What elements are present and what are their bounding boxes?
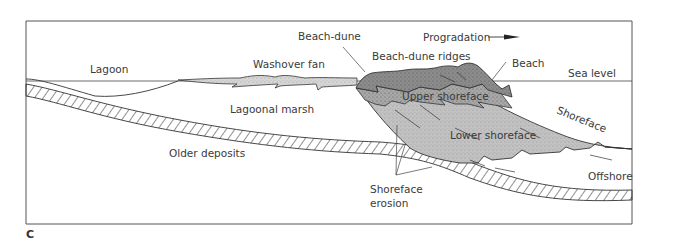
offshore-seafloor — [605, 147, 632, 149]
label-progradation: Progradation — [423, 31, 490, 43]
label-washover-fan: Washover fan — [253, 58, 325, 70]
label-older-deposits: Older deposits — [169, 147, 245, 159]
label-beach-dune-ridges: Beach-dune ridges — [372, 50, 471, 62]
label-lagoonal-marsh: Lagoonal marsh — [230, 103, 314, 115]
beach-dune-leader — [343, 47, 365, 72]
progradation-arrow-icon — [488, 35, 520, 40]
label-beach-dune: Beach-dune — [298, 30, 361, 42]
label-sea-level: Sea level — [568, 67, 616, 79]
panel-letter: C — [26, 228, 34, 241]
label-shoreface: Shoreface — [555, 104, 608, 135]
beach-leader — [492, 62, 506, 80]
label-shoreface-erosion-1: Shoreface — [370, 183, 423, 195]
coastal-barrier-diagram: Lagoon Washover fan Beach-dune Progradat… — [0, 0, 684, 244]
label-lagoon: Lagoon — [90, 63, 128, 75]
label-lower-shoreface: Lower shoreface — [450, 129, 536, 141]
label-upper-shoreface: Upper shoreface — [402, 90, 489, 102]
label-shoreface-erosion-2: erosion — [370, 197, 408, 209]
label-offshore: Offshore — [588, 170, 633, 182]
label-beach: Beach — [512, 57, 545, 69]
